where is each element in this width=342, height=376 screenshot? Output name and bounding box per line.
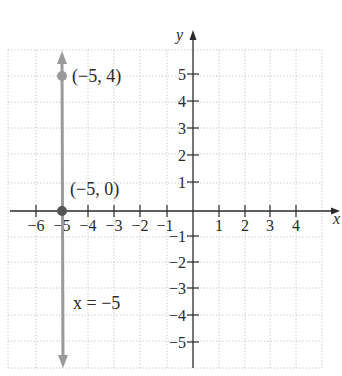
svg-text:−1: −1 <box>169 228 186 245</box>
svg-text:−2: −2 <box>131 217 148 234</box>
y-axis-arrow-icon <box>190 30 197 40</box>
grid <box>8 50 322 368</box>
point-neg5-0 <box>57 206 67 216</box>
coordinate-plane: y x −6 −5 −4 −3 −2 −1 1 2 3 4 5 4 3 2 1 … <box>0 0 342 376</box>
point-label-neg5-0: (−5, 0) <box>70 179 119 200</box>
svg-text:5: 5 <box>178 66 186 83</box>
x-axis-label: x <box>332 210 340 227</box>
y-axis <box>187 30 199 368</box>
svg-text:4: 4 <box>178 93 186 110</box>
line-up-arrow-icon <box>57 51 67 64</box>
svg-text:3: 3 <box>178 120 186 137</box>
svg-text:−3: −3 <box>169 280 186 297</box>
svg-text:−3: −3 <box>105 217 122 234</box>
svg-text:3: 3 <box>266 217 274 234</box>
point-neg5-4 <box>57 71 67 81</box>
svg-text:4: 4 <box>292 217 300 234</box>
svg-text:−5: −5 <box>169 334 186 351</box>
x-tick-labels: −6 −5 −4 −3 −2 −1 1 2 3 4 <box>27 217 300 234</box>
y-axis-label: y <box>174 26 184 44</box>
y-tick-labels: 5 4 3 2 1 −1 −2 −3 −4 −5 <box>169 66 186 351</box>
svg-text:2: 2 <box>241 217 249 234</box>
point-label-neg5-4: (−5, 4) <box>72 66 121 87</box>
svg-text:1: 1 <box>178 174 186 191</box>
svg-text:2: 2 <box>178 147 186 164</box>
svg-text:−6: −6 <box>27 217 44 234</box>
svg-text:−2: −2 <box>169 254 186 271</box>
line-down-arrow-icon <box>58 355 68 368</box>
svg-text:1: 1 <box>215 217 223 234</box>
svg-text:−4: −4 <box>79 217 96 234</box>
equation-label: x = −5 <box>73 293 120 313</box>
svg-text:−4: −4 <box>169 307 186 324</box>
